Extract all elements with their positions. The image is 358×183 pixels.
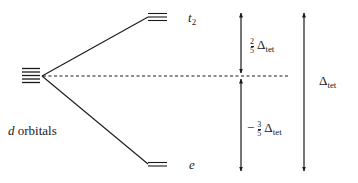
lower-gap-label: −35Δtet [247, 121, 282, 138]
t2-label: t2 [188, 11, 196, 27]
upper-correlation-line [42, 17, 148, 76]
d-orbitals-label: d orbitals [8, 124, 57, 137]
correlation-lines [42, 17, 148, 164]
d-orbitals-label-rest: orbitals [15, 123, 57, 138]
upper-gap-fraction: 25 [250, 38, 254, 55]
lower-gap-prefix: − [247, 120, 254, 135]
lower-gap-symbol: Δ [264, 120, 272, 135]
lower-gap-denominator: 5 [257, 130, 261, 138]
upper-gap-label: 25Δtet [250, 38, 274, 55]
d-orbital-levels [22, 69, 40, 83]
t2-label-subscript: 2 [192, 17, 197, 27]
e-label-text: e [189, 157, 195, 172]
e-levels [148, 163, 167, 167]
upper-gap-subscript: tet [265, 44, 274, 54]
upper-gap-denominator: 5 [250, 47, 254, 55]
lower-correlation-line [42, 76, 148, 164]
lower-gap-fraction: 35 [257, 121, 261, 138]
lower-gap-subscript: tet [273, 127, 282, 137]
total-gap-subscript: tet [327, 80, 336, 90]
total-gap-label: Δtet [319, 74, 336, 90]
splitting-diagram-canvas [0, 0, 358, 183]
lower-gap-numerator: 3 [257, 121, 261, 129]
t2-levels [148, 14, 167, 21]
e-label: e [189, 158, 195, 171]
upper-gap-numerator: 2 [250, 38, 254, 46]
